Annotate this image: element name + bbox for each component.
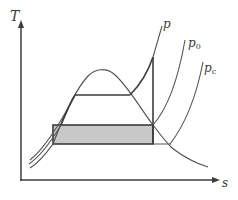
t-axis-label: T xyxy=(10,9,19,23)
curve-label-pc: pc xyxy=(204,62,216,76)
isobar-pc xyxy=(170,62,203,144)
saturation-dome xyxy=(53,70,208,167)
isobar-p0 xyxy=(153,40,185,125)
curve-label-p0: p0 xyxy=(188,37,201,51)
t-axis-label-text: T xyxy=(10,8,19,24)
isobar-p-ext xyxy=(153,26,162,57)
curve-pc-sub: c xyxy=(212,67,216,76)
s-axis-label-text: s xyxy=(222,176,228,190)
ts-diagram xyxy=(0,0,238,200)
s-axis-arrow-icon xyxy=(212,177,220,183)
curve-p0-text: p xyxy=(188,36,196,50)
s-axis-label: s xyxy=(222,177,228,189)
curve-p-text: p xyxy=(163,17,171,31)
curve-pc-text: p xyxy=(204,61,212,75)
liquid-segment xyxy=(61,95,75,125)
isobar-p xyxy=(130,57,153,95)
curve-p0-sub: 0 xyxy=(196,42,201,51)
curve-label-p: p xyxy=(163,18,171,30)
shaded-work-area xyxy=(53,125,153,144)
